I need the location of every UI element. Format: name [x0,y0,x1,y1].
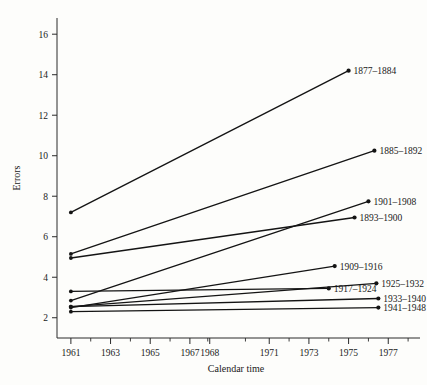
series-label: 1877–1884 [354,66,397,76]
series-label: 1901–1908 [373,197,416,207]
chart-figure: 246810121416 196119631965196719681971197… [0,0,427,385]
x-tick-label: 1968 [200,348,219,358]
series-endpoint-dot [366,199,370,203]
series-endpoint-dot [346,69,350,73]
series-startpoint-dot [69,305,73,309]
series-endpoint-dot [352,215,356,219]
y-tick-label: 8 [43,192,48,202]
series-endpoint-dot [327,286,331,290]
series-startpoint-dot [69,252,73,256]
series-line [71,217,355,258]
series-endpoint-dot [333,264,337,268]
x-tick-label: 1965 [141,348,160,358]
chart-canvas: 246810121416 196119631965196719681971197… [0,0,427,385]
series-label: 1917–1924 [334,284,377,294]
series-endpoint-dot [376,306,380,310]
series-group: 1877–18841885–18921901–19081893–19001909… [69,66,426,314]
y-tick-label: 6 [43,232,48,242]
x-tick-label: 1973 [299,348,318,358]
series-line [71,151,374,254]
series-1877-1884: 1877–1884 [69,66,397,214]
y-axis-ticks: 246810121416 [39,30,58,324]
y-tick-label: 10 [39,151,49,161]
series-startpoint-dot [69,299,73,303]
series-endpoint-dot [372,149,376,153]
series-line [71,71,349,213]
series-startpoint-dot [69,256,73,260]
series-startpoint-dot [69,211,73,215]
series-startpoint-dot [69,290,73,294]
series-label: 1941–1948 [383,303,426,313]
x-tick-label: 1971 [260,348,279,358]
series-endpoint-dot [376,296,380,300]
x-tick-label: 1967 [180,348,199,358]
x-axis-ticks: 196119631965196719681971197319751977 [61,338,408,358]
series-line [71,308,378,312]
y-tick-label: 16 [39,30,49,40]
x-axis-title: Calendar time [208,363,265,374]
series-label: 1925–1932 [381,279,424,289]
y-axis-title: Errors [11,165,22,190]
series-startpoint-dot [69,310,73,314]
x-tick-label: 1961 [61,348,80,358]
x-tick-label: 1975 [339,348,358,358]
x-tick-label: 1963 [101,348,120,358]
series-label: 1893–1900 [360,213,403,223]
series-label: 1885–1892 [379,146,422,156]
series-1933-1940: 1933–1940 [69,294,426,309]
series-1893-1900: 1893–1900 [69,213,403,260]
y-tick-label: 12 [39,111,49,121]
y-tick-label: 14 [39,70,49,80]
y-tick-label: 2 [43,313,48,323]
series-label: 1909–1916 [340,262,383,272]
y-tick-label: 4 [43,273,48,283]
x-tick-label: 1977 [379,348,398,358]
series-line [71,201,369,300]
